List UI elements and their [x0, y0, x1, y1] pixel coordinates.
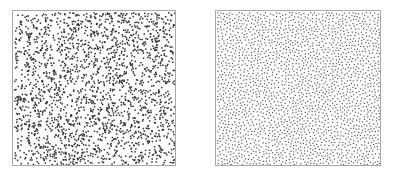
blue-noise-point-distribution-plot: [215, 10, 381, 166]
random-point-distribution-plot: [12, 10, 176, 166]
blue-noise-points-canvas: [216, 11, 380, 165]
random-points-canvas: [13, 11, 175, 165]
